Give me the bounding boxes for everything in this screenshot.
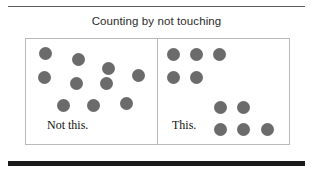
dot (214, 123, 227, 136)
panel-not-this: Not this. (26, 39, 157, 144)
dot (100, 77, 113, 90)
dot (167, 48, 180, 61)
page-title: Counting by not touching (0, 15, 313, 27)
dot (237, 123, 250, 136)
caption-this: This. (172, 118, 196, 133)
dot (72, 53, 85, 66)
dot (39, 47, 52, 60)
dot (102, 62, 115, 75)
dot (237, 101, 250, 114)
dot (120, 97, 133, 110)
dot (70, 77, 83, 90)
dot (38, 71, 51, 84)
dot (167, 71, 180, 84)
comparison-diagram: Not this. This. (25, 38, 290, 145)
dot (190, 48, 203, 61)
top-divider-rule (8, 6, 305, 7)
dot (214, 101, 227, 114)
dot (87, 99, 100, 112)
dot (190, 71, 203, 84)
caption-not-this: Not this. (47, 118, 88, 133)
dot (213, 48, 226, 61)
panel-this: This. (157, 39, 291, 144)
dot (261, 123, 274, 136)
dot (57, 99, 70, 112)
bottom-divider-bar (8, 161, 305, 166)
dot (132, 69, 145, 82)
slide-canvas: Counting by not touching Not this. This. (0, 0, 313, 173)
